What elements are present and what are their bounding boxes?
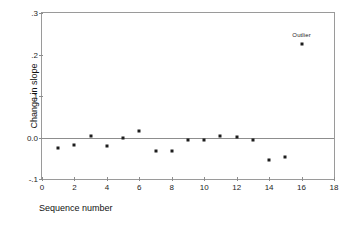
x-tick-label: 4 [105,183,109,192]
y-tick-mark [39,96,43,97]
data-point [203,139,206,142]
x-tick-label: 16 [297,183,306,192]
data-point [235,135,238,138]
y-tick-label: .3 [31,9,38,18]
x-tick-label: 18 [330,183,339,192]
y-tick-label: 0.0 [27,133,38,142]
x-tick-label: 8 [170,183,174,192]
data-point [284,156,287,159]
x-tick-mark [204,177,205,181]
x-tick-label: 2 [72,183,76,192]
data-point [300,43,303,46]
data-point [187,139,190,142]
data-point [154,150,157,153]
data-point [122,136,125,139]
x-tick-mark [139,177,140,181]
x-tick-mark [334,177,335,181]
data-point [138,129,141,132]
x-tick-label: 0 [40,183,44,192]
x-tick-mark [107,177,108,181]
x-tick-label: 10 [200,183,209,192]
x-tick-mark [74,177,75,181]
x-tick-mark [172,177,173,181]
x-tick-mark [42,177,43,181]
x-tick-mark [302,177,303,181]
scatter-chart-figure: Change in slope Sequence number -.10.0.1… [0,0,351,225]
y-tick-label: .1 [31,92,38,101]
data-point [105,144,108,147]
x-axis-title: Sequence number [39,203,113,214]
plot-area: -.10.0.1.2.3 024681012141618 Outlier [41,12,335,180]
data-point [251,138,254,141]
y-tick-mark [39,55,43,56]
data-point [268,159,271,162]
data-point [73,143,76,146]
y-tick-mark [39,13,43,14]
x-tick-mark [237,177,238,181]
x-tick-mark [269,177,270,181]
data-point [219,135,222,138]
x-tick-label: 14 [265,183,274,192]
x-tick-label: 6 [137,183,141,192]
y-tick-label: -.1 [29,175,38,184]
outlier-annotation-label: Outlier [292,32,310,39]
y-tick-mark [39,138,43,139]
data-point [170,150,173,153]
x-tick-label: 12 [232,183,241,192]
y-tick-label: .2 [31,50,38,59]
data-point [89,134,92,137]
data-point [57,146,60,149]
